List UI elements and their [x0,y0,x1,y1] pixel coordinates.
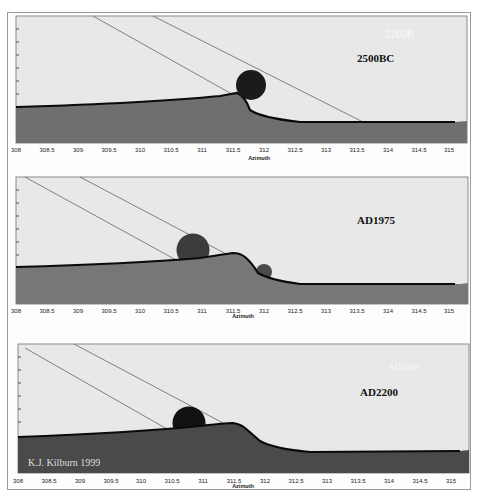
svg-text:312.5: 312.5 [288,478,304,484]
svg-text:314: 314 [383,147,394,153]
x-axis-ticks: 308 308.5 309 309.5 310 310.5 311 311.5 … [11,147,455,153]
svg-text:313: 313 [321,147,332,153]
svg-text:310.5: 310.5 [163,308,179,314]
credit-label: K.J. Kilburn 1999 [28,457,100,468]
svg-text:308: 308 [13,478,24,484]
panel-title: AD2200 [360,386,398,398]
panel-title: 2500BC [357,52,394,64]
svg-text:312.5: 312.5 [287,308,303,314]
svg-text:313.5: 313.5 [349,147,365,153]
panel-ad1975: AD1975 308 308.5 309 309.5 310 310.5 311… [0,165,488,330]
x-axis-label: Azimuth [232,313,254,319]
svg-text:310: 310 [135,147,146,153]
svg-text:311: 311 [197,308,207,314]
svg-text:311.5: 311.5 [226,147,241,153]
panel-title: AD1975 [357,214,395,226]
svg-text:313.5: 313.5 [350,478,366,484]
svg-text:309.5: 309.5 [101,308,117,314]
svg-text:313: 313 [322,478,333,484]
sun-disk [236,70,266,100]
svg-text:312: 312 [259,147,270,153]
svg-text:311: 311 [198,478,208,484]
svg-text:315: 315 [446,478,457,484]
svg-text:309: 309 [73,308,84,314]
svg-text:313.5: 313.5 [349,308,365,314]
svg-text:310.5: 310.5 [163,147,179,153]
panel-watermark: AD2200 [388,362,419,372]
svg-text:308.5: 308.5 [39,308,55,314]
svg-text:310: 310 [136,478,147,484]
svg-text:309.5: 309.5 [103,478,119,484]
svg-text:312.5: 312.5 [287,147,303,153]
svg-text:309: 309 [75,478,86,484]
svg-text:313: 313 [321,308,332,314]
svg-text:310: 310 [135,308,146,314]
svg-text:314.5: 314.5 [411,308,427,314]
svg-text:312: 312 [260,478,271,484]
svg-text:311: 311 [197,147,207,153]
svg-text:308: 308 [11,308,22,314]
svg-text:308.5: 308.5 [39,147,55,153]
svg-text:312: 312 [259,308,270,314]
svg-text:309: 309 [73,147,84,153]
svg-text:315: 315 [444,147,455,153]
svg-text:315: 315 [444,308,455,314]
panel-watermark: 2700B [385,29,414,40]
svg-text:309.5: 309.5 [101,147,117,153]
x-axis-label: Azimuth [248,155,270,161]
svg-text:310.5: 310.5 [164,478,180,484]
panel-2500bc: 2700B 2500BC 308 308.5 309 309.5 310 310… [0,0,488,165]
svg-text:314.5: 314.5 [412,478,428,484]
panel-ad2200: AD2200 AD2200 K.J. Kilburn 1999 308 308.… [0,330,488,502]
svg-text:314: 314 [384,478,395,484]
svg-text:314: 314 [383,308,394,314]
x-axis-label: Azimuth [232,483,254,489]
svg-text:308.5: 308.5 [41,478,57,484]
svg-text:308: 308 [11,147,22,153]
svg-text:314.5: 314.5 [411,147,427,153]
